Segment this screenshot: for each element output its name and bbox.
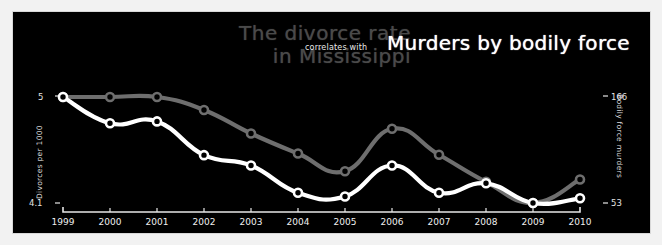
data-point [388, 125, 396, 133]
series-bodily-force-murders [59, 93, 584, 207]
data-point [435, 189, 443, 197]
chart-plot-area: The divorce rate in Mississippi correlat… [13, 12, 650, 233]
right-axis-bottom-tick: 53 [611, 198, 622, 208]
data-point [59, 93, 67, 101]
chart-title-left: The divorce rate in Mississippi [131, 22, 411, 68]
data-point [153, 93, 161, 101]
data-point [106, 119, 114, 127]
chart-title-right: Murders by bodily force [387, 32, 630, 55]
data-point [576, 175, 584, 183]
left-axis-title: Divorces per 1000 [35, 125, 44, 199]
data-point [341, 167, 349, 175]
data-point [200, 106, 208, 114]
series-line [63, 97, 580, 204]
x-tick-label-2006: 2006 [372, 217, 412, 227]
left-axis-bottom-tick: 4.1 [29, 198, 43, 208]
data-point [247, 161, 255, 169]
x-tick-label-2000: 2000 [90, 217, 130, 227]
data-point [576, 194, 584, 202]
data-point [482, 179, 490, 187]
x-tick-label-2009: 2009 [513, 217, 553, 227]
x-tick-label-2003: 2003 [231, 217, 271, 227]
x-tick-label-1999: 1999 [43, 217, 83, 227]
x-tick-label-2010: 2010 [560, 217, 600, 227]
data-point [247, 130, 255, 138]
data-point [388, 161, 396, 169]
x-tick-label-2007: 2007 [419, 217, 459, 227]
x-tick-label-2008: 2008 [466, 217, 506, 227]
right-axis-title: Bodily force murders [615, 94, 624, 178]
chart-title-connector: correlates with [305, 43, 367, 52]
data-point [435, 151, 443, 159]
data-point [200, 151, 208, 159]
data-point [294, 150, 302, 158]
data-point [106, 93, 114, 101]
data-point [529, 199, 537, 207]
x-tick-label-2004: 2004 [278, 217, 318, 227]
x-tick-label-2005: 2005 [325, 217, 365, 227]
data-point [341, 192, 349, 200]
data-point [153, 117, 161, 125]
data-point [294, 189, 302, 197]
x-tick-label-2002: 2002 [184, 217, 224, 227]
left-axis-top-tick: 5 [38, 92, 43, 102]
x-tick-label-2001: 2001 [137, 217, 177, 227]
x-axis-line [63, 207, 580, 212]
chart-frame: The divorce rate in Mississippi correlat… [0, 0, 662, 245]
